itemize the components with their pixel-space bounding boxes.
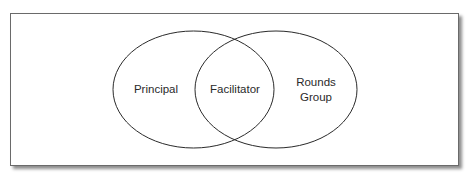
facilitator-label: Facilitator — [210, 83, 260, 95]
rounds-group-label-line2: Group — [300, 91, 332, 103]
venn-diagram: Principal Facilitator Rounds Group — [0, 0, 472, 176]
rounds-group-label-line1: Rounds — [296, 76, 336, 88]
principal-label: Principal — [134, 83, 178, 95]
